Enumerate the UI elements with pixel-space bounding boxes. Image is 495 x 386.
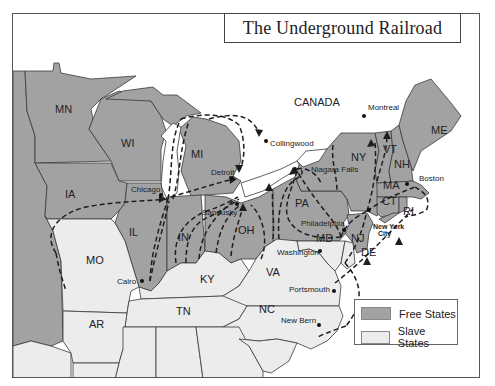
label-MD: MD bbox=[316, 232, 333, 244]
label-new-bern: New Bern bbox=[281, 316, 316, 325]
label-ME: ME bbox=[431, 124, 448, 136]
city-dot-boston bbox=[405, 182, 409, 186]
label-PA: PA bbox=[295, 197, 310, 209]
label-washington: Washington bbox=[277, 248, 319, 257]
map-title-box: The Underground Railroad bbox=[224, 13, 461, 43]
city-dot-sandusky bbox=[235, 202, 239, 206]
label-VT: VT bbox=[383, 143, 397, 155]
label-AR: AR bbox=[89, 318, 104, 330]
label-NC: NC bbox=[259, 303, 275, 315]
label-IA: IA bbox=[65, 188, 76, 200]
city-dot-portsmouth bbox=[332, 289, 336, 293]
label-IL: IL bbox=[129, 226, 138, 238]
label-nyc-2: City bbox=[378, 230, 391, 238]
label-MA: MA bbox=[383, 179, 400, 191]
label-cairo: Cairo bbox=[117, 277, 137, 286]
legend-label-slave: Slave States bbox=[398, 325, 457, 349]
label-MN: MN bbox=[55, 103, 72, 115]
city-dot-cairo bbox=[140, 279, 144, 283]
legend-swatch-free bbox=[361, 307, 391, 320]
label-NJ: NJ bbox=[351, 232, 364, 244]
city-dot-philadelphia bbox=[342, 228, 346, 232]
state-IA bbox=[35, 163, 127, 219]
city-dot-collingwood bbox=[264, 139, 268, 143]
label-canada: CANADA bbox=[294, 96, 341, 108]
label-collingwood: Collingwood bbox=[270, 139, 314, 148]
label-IN: IN bbox=[178, 231, 189, 243]
label-VA: VA bbox=[266, 266, 281, 278]
city-dot-montreal bbox=[362, 114, 366, 118]
city-dot-newbern bbox=[317, 323, 321, 327]
label-TN: TN bbox=[176, 305, 191, 317]
legend-item-free: Free States bbox=[361, 307, 456, 320]
label-NY: NY bbox=[351, 151, 367, 163]
label-DE: DE bbox=[361, 246, 376, 258]
label-sandusky: Sandusky bbox=[202, 208, 237, 217]
label-KY: KY bbox=[200, 273, 215, 285]
legend-item-slave: Slave States bbox=[361, 325, 457, 349]
legend-swatch-slave bbox=[361, 331, 390, 344]
map-legend: Free States Slave States bbox=[354, 299, 458, 345]
label-nyc-1: New York bbox=[373, 223, 404, 230]
state-AL bbox=[156, 327, 203, 378]
label-OH: OH bbox=[238, 224, 255, 236]
label-WI: WI bbox=[121, 137, 134, 149]
city-dot-niagara bbox=[293, 167, 297, 171]
city-dot-nyc bbox=[367, 208, 371, 212]
label-portsmouth: Portsmouth bbox=[289, 285, 330, 294]
label-montreal: Montreal bbox=[368, 103, 399, 112]
label-boston: Boston bbox=[419, 174, 444, 183]
label-NH: NH bbox=[394, 158, 410, 170]
legend-label-free: Free States bbox=[399, 308, 456, 320]
label-niagara-falls: Niagara Falls bbox=[311, 165, 358, 174]
label-MI: MI bbox=[191, 148, 203, 160]
label-detroit: Detroit bbox=[211, 168, 235, 177]
label-philadelphia: Philadelphia bbox=[301, 219, 345, 228]
map-title: The Underground Railroad bbox=[243, 18, 442, 39]
label-MO: MO bbox=[86, 254, 104, 266]
state-LA bbox=[73, 363, 119, 378]
label-RI: RI bbox=[403, 205, 414, 217]
label-chicago: Chicago bbox=[131, 185, 161, 194]
label-CT: CT bbox=[382, 195, 397, 207]
